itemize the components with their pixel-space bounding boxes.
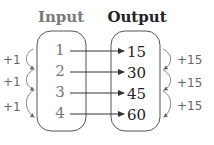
mapping-diagram: Input Output 1 2 3 4 15 30 45 60 +1 +1 +… <box>0 0 214 145</box>
input-value: 3 <box>55 83 65 101</box>
output-step-label: +15 <box>177 76 202 90</box>
curved-arrow-icon <box>163 91 171 117</box>
input-step-label: +1 <box>3 53 21 67</box>
output-step-label: +15 <box>177 53 202 67</box>
output-value: 30 <box>127 64 146 82</box>
input-header: Input <box>38 8 84 26</box>
curved-arrow-icon <box>26 70 34 90</box>
mapping-arrows <box>70 51 124 114</box>
output-value: 15 <box>127 43 146 61</box>
curved-arrow-icon <box>163 49 171 69</box>
curved-arrow-icon <box>163 70 171 90</box>
input-step-label: +1 <box>3 75 21 89</box>
output-value: 45 <box>127 85 146 103</box>
input-output-diagram: Input Output 1 2 3 4 15 30 45 60 +1 +1 +… <box>0 0 214 145</box>
input-value: 1 <box>55 41 65 59</box>
output-step-label: +15 <box>177 99 202 113</box>
input-value: 2 <box>55 62 65 80</box>
input-value: 4 <box>55 104 65 122</box>
output-header: Output <box>107 8 166 26</box>
curved-arrow-icon <box>26 49 34 69</box>
curved-arrow-icon <box>26 91 34 117</box>
output-value: 60 <box>127 106 146 124</box>
input-step-arcs <box>26 49 34 117</box>
input-step-label: +1 <box>3 100 21 114</box>
output-step-arcs <box>163 49 171 117</box>
